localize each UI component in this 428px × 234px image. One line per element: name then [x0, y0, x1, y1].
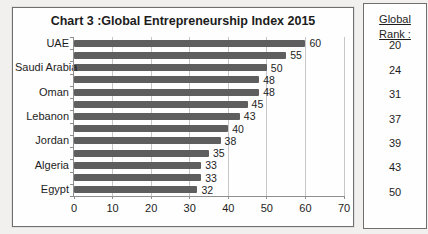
y-axis-tick-5: [70, 98, 73, 99]
category-label-egypt: Egypt: [15, 183, 69, 195]
rank-header-line1: Global: [364, 12, 426, 27]
x-axis-label-70: 70: [329, 202, 359, 214]
category-label-lebanon: Lebanon: [15, 110, 69, 122]
rank-value-1: 24: [364, 64, 426, 76]
x-axis-tick-30: [189, 196, 190, 199]
bar-value-label-6: 43: [244, 110, 256, 122]
x-axis-label-0: 0: [59, 202, 89, 214]
gridline-x60: [305, 37, 306, 196]
y-axis-tick-3: [70, 74, 73, 75]
x-axis-line: [73, 196, 344, 197]
x-axis-label-60: 60: [290, 202, 320, 214]
y-axis-tick-8: [70, 135, 73, 136]
bar-9: [74, 150, 209, 157]
rank-value-0: 20: [364, 39, 426, 51]
gridline-x70: [344, 37, 345, 196]
category-label-algeria: Algeria: [15, 159, 69, 171]
bar-7: [74, 125, 228, 132]
bar-2: [74, 64, 267, 71]
y-axis-tick-2: [70, 61, 73, 62]
category-label-saudi-arabia: Saudi Arabia: [15, 61, 69, 73]
bar-6: [74, 113, 240, 120]
x-axis-tick-0: [74, 196, 75, 199]
bar-value-label-5: 45: [252, 98, 264, 110]
rank-panel-header: Global Rank :: [364, 12, 426, 42]
x-axis-tick-10: [112, 196, 113, 199]
chart-frame: Chart 3 :Global Entrepreneurship Index 2…: [12, 7, 354, 227]
bar-value-label-10: 33: [205, 159, 217, 171]
bar-value-label-4: 48: [263, 86, 275, 98]
scanned-page: Chart 3 :Global Entrepreneurship Index 2…: [0, 0, 428, 234]
rank-value-4: 39: [364, 137, 426, 149]
bar-value-label-1: 55: [290, 49, 302, 61]
bar-8: [74, 137, 221, 144]
bar-value-label-7: 40: [232, 123, 244, 135]
x-axis-tick-50: [266, 196, 267, 199]
global-rank-panel: Global Rank : 20243137394350: [363, 3, 427, 229]
bar-3: [74, 76, 259, 83]
chart-title: Chart 3 :Global Entrepreneurship Index 2…: [13, 14, 353, 28]
bar-value-label-2: 50: [271, 62, 283, 74]
y-axis-tick-4: [70, 86, 73, 87]
bar-10: [74, 162, 201, 169]
x-axis-tick-20: [151, 196, 152, 199]
y-axis-tick-1: [70, 49, 73, 50]
bar-value-label-11: 33: [205, 172, 217, 184]
bar-value-label-12: 32: [201, 184, 213, 196]
category-label-uae: UAE: [15, 37, 69, 49]
bar-value-label-3: 48: [263, 74, 275, 86]
rank-value-3: 37: [364, 113, 426, 125]
category-label-jordan: Jordan: [15, 134, 69, 146]
bar-1: [74, 52, 286, 59]
bar-0: [74, 40, 305, 47]
y-axis-tick-7: [70, 123, 73, 124]
y-axis-tick-12: [70, 184, 73, 185]
bar-value-label-9: 35: [213, 147, 225, 159]
rank-value-6: 50: [364, 186, 426, 198]
x-axis-label-50: 50: [252, 202, 282, 214]
plot-area: 60555048484543403835333332: [74, 37, 344, 196]
y-axis-tick-11: [70, 172, 73, 173]
bar-value-label-0: 60: [309, 37, 321, 49]
y-axis-line: [73, 37, 74, 197]
bar-value-label-8: 38: [225, 135, 237, 147]
rank-value-2: 31: [364, 88, 426, 100]
x-axis-label-20: 20: [136, 202, 166, 214]
bar-5: [74, 101, 248, 108]
category-label-oman: Oman: [15, 86, 69, 98]
bar-12: [74, 186, 197, 193]
y-axis-tick-9: [70, 147, 73, 148]
x-axis-tick-70: [344, 196, 345, 199]
x-axis-tick-60: [305, 196, 306, 199]
x-axis-label-10: 10: [98, 202, 128, 214]
gridline-x50: [266, 37, 267, 196]
y-axis-tick-0: [70, 37, 73, 38]
x-axis-tick-40: [228, 196, 229, 199]
bar-4: [74, 89, 259, 96]
x-axis-label-30: 30: [175, 202, 205, 214]
y-axis-tick-6: [70, 110, 73, 111]
y-axis-tick-10: [70, 159, 73, 160]
x-axis-label-40: 40: [213, 202, 243, 214]
bar-11: [74, 174, 201, 181]
rank-value-5: 43: [364, 161, 426, 173]
